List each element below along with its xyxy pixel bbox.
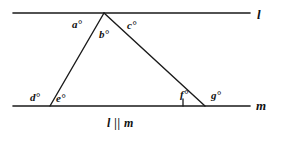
line-label-m: m (256, 99, 266, 112)
line-label-l: l (257, 8, 261, 21)
angle-label-g: g° (211, 90, 221, 101)
angle-label-d: d° (30, 92, 40, 103)
parallel-caption: l || m (107, 117, 134, 129)
angle-label-f: f° (180, 89, 188, 100)
angle-label-e: e° (56, 93, 65, 104)
angle-label-a: a° (72, 19, 82, 30)
triangle-right-leg (104, 13, 205, 106)
geometry-drawing (0, 0, 285, 141)
geometry-figure: a° b° c° d° e° f° g° l m l || m (0, 0, 285, 141)
angle-label-b: b° (99, 29, 109, 40)
angle-label-c: c° (127, 20, 136, 31)
